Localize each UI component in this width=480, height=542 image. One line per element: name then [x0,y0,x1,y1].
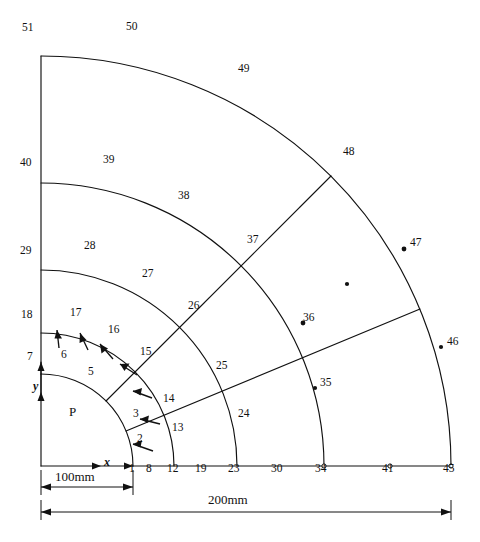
node-label: 5 [88,366,94,378]
node-label: 29 [20,245,32,257]
node-label: 17 [70,307,82,319]
node-label: 27 [142,268,154,280]
node-label: 12 [167,463,179,475]
node-marker-47 [402,247,407,252]
node-label: 46 [447,336,459,348]
node-label: 41 [382,463,394,475]
node-marker-35 [313,386,317,390]
node-label: 3 [133,408,139,420]
dimension-label-100mm: 100mm [55,471,95,483]
node-label: 16 [108,324,120,336]
node-label: 40 [20,157,32,169]
radial-22deg [126,309,420,431]
pressure-arrowheads [55,330,150,448]
fem-mesh-figure: 1 2 3 5 6 7 8 12 13 14 15 16 17 18 19 23… [0,0,480,542]
node-marker-43 [345,282,349,286]
pressure-label: P [69,406,76,418]
node-label: 39 [103,154,115,166]
node-markers [301,247,454,469]
node-label: 51 [22,22,34,34]
node-label: 30 [271,463,283,475]
node-label: 14 [163,393,175,405]
node-label: 15 [140,346,152,358]
node-label: 37 [247,234,259,246]
node-label: 47 [410,237,422,249]
node-label: 25 [216,360,228,372]
x-axis-label: x [104,457,110,469]
y-axis-arrowhead [38,392,45,401]
node-label: 28 [84,240,96,252]
node-label: 26 [188,300,200,312]
y-axis-arrowhead-2 [38,362,45,371]
node-label: 23 [228,463,240,475]
node-label: 18 [21,309,33,321]
dimension-label-200mm: 200mm [208,494,248,506]
node-label: 35 [320,377,332,389]
node-label: 34 [315,463,327,475]
node-label: 1 [129,463,135,475]
node-label: 38 [178,190,190,202]
node-label: 36 [303,312,315,324]
node-label: 2 [137,433,143,445]
node-label: 49 [238,63,250,75]
node-marker-46 [439,345,443,349]
node-label: 45 [443,463,455,475]
node-label: 50 [126,21,138,33]
node-label: 7 [27,351,33,363]
node-label: 24 [238,408,250,420]
node-label: 13 [172,422,184,434]
mesh-drawing [0,0,480,542]
node-label: 48 [343,146,355,158]
node-label: 19 [195,463,207,475]
node-label: 6 [61,349,67,361]
node-label: 8 [146,463,152,475]
y-axis-label: y [33,381,38,393]
